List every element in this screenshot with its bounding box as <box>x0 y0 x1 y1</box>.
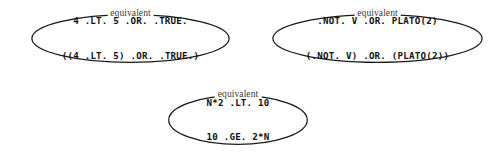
expression-line: N*2 .LT. 10 <box>168 97 308 108</box>
equivalence-group-1: equivalent 4 .LT. 5 .OR. .TRUE. ((4 .LT.… <box>31 14 230 63</box>
expression-line: .NOT. V .OR. PLATO(2) <box>272 16 483 27</box>
expression-pair-1: 4 .LT. 5 .OR. .TRUE. ((4 .LT. 5) .OR. .T… <box>31 0 230 84</box>
expression-pair-3: N*2 .LT. 10 10 .GE. 2*N <box>168 74 308 158</box>
expression-pair-2: .NOT. V .OR. PLATO(2) (.NOT. V) .OR. (PL… <box>272 0 483 84</box>
expression-line: ((4 .LT. 5) .OR. .TRUE.) <box>31 50 230 61</box>
expression-line: 10 .GE. 2*N <box>168 131 308 142</box>
equivalence-group-3: equivalent N*2 .LT. 10 10 .GE. 2*N <box>168 95 308 145</box>
expression-line: (.NOT. V) .OR. (PLATO(2)) <box>272 50 483 61</box>
expression-line: 4 .LT. 5 .OR. .TRUE. <box>31 16 230 27</box>
equivalence-group-2: equivalent .NOT. V .OR. PLATO(2) (.NOT. … <box>272 14 483 63</box>
equivalence-figure: equivalent 4 .LT. 5 .OR. .TRUE. ((4 .LT.… <box>0 0 492 158</box>
